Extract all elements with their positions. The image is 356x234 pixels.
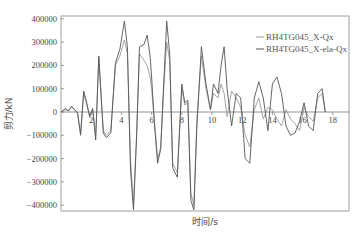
y-tick-label: 400000 bbox=[32, 14, 58, 24]
legend-label-x-ela-qx: RH4TG045_X-ela-Qx bbox=[266, 44, 347, 54]
y-axis: 4000003000002000001000000−100000−200000−… bbox=[27, 14, 64, 210]
x-axis-label: 时间/s bbox=[192, 216, 218, 227]
x-tick-label: 4 bbox=[119, 115, 124, 125]
y-tick-label: 200000 bbox=[32, 60, 58, 70]
y-tick-label: −200000 bbox=[27, 154, 57, 164]
y-tick-label: 100000 bbox=[32, 84, 58, 94]
legend-label-x-qx: RH4TG045_X-Qx bbox=[266, 32, 334, 42]
y-tick-label: 0 bbox=[53, 107, 57, 117]
y-tick-label: −300000 bbox=[27, 177, 57, 187]
y-tick-label: 300000 bbox=[32, 37, 58, 47]
y-tick-label: −400000 bbox=[27, 200, 57, 210]
shear-force-time-history-chart: 4000003000002000001000000−100000−200000−… bbox=[0, 0, 356, 234]
x-tick-label: 6 bbox=[149, 115, 153, 125]
y-axis-label: 剪力/kN bbox=[3, 98, 14, 131]
x-tick-label: 18 bbox=[329, 115, 338, 125]
y-tick-label: −100000 bbox=[27, 130, 57, 140]
x-tick-label: 10 bbox=[208, 115, 217, 125]
